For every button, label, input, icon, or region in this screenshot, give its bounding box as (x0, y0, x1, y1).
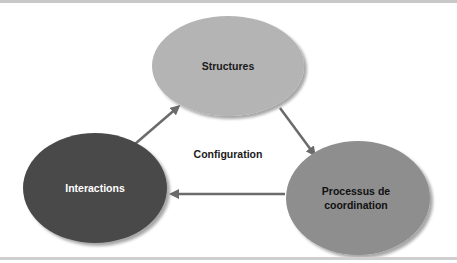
bottom-divider (0, 257, 457, 260)
node-structures: Structures (152, 16, 304, 116)
processus-label-line1: Processus de (322, 185, 390, 197)
interactions-label: Interactions (65, 182, 125, 194)
arrow-structures-to-processus (280, 108, 314, 154)
processus-label-line2: coordination (324, 199, 388, 211)
configuration-center-label: Configuration (194, 148, 263, 160)
node-interactions: Interactions (23, 133, 167, 243)
processus-ellipse (286, 141, 430, 255)
node-processus-coordination: Processus de coordination (286, 141, 430, 255)
structures-label: Structures (202, 60, 255, 72)
configuration-cycle-diagram: Structures Interactions Processus de coo… (0, 0, 457, 263)
